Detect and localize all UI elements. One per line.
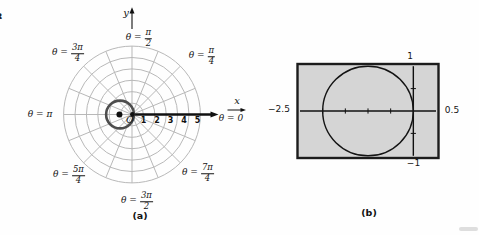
angle-label-prefix: θ =	[126, 34, 142, 43]
window-xmax-text: 0.5	[445, 106, 459, 115]
fraction: 5π4	[72, 165, 85, 185]
window-xmax-label: 0.5	[445, 106, 459, 115]
fraction-denominator: 4	[76, 176, 81, 185]
textbook-figure: 8 y x O θ = π2 θ = 3π4 θ = π4 θ = π θ = …	[0, 0, 479, 235]
fraction-numerator: 3π	[140, 191, 153, 202]
angle-label-prefix: θ =	[52, 49, 68, 58]
caption-a-text: (a)	[132, 211, 147, 221]
angle-label-3pi-over-2: θ = 3π2	[121, 191, 153, 211]
angle-label-text: θ = π	[28, 110, 53, 119]
angle-label-pi-over-2: θ = π2	[126, 28, 152, 48]
window-xmin-text: −2.5	[268, 104, 290, 113]
cropped-figure-number-text: 8	[0, 11, 2, 19]
fraction: π4	[208, 46, 216, 66]
angle-label-pi-over-4: θ = π4	[189, 46, 215, 66]
angle-label-prefix: θ =	[182, 169, 198, 178]
x-tick-label-2: 2	[154, 117, 160, 125]
angle-label-prefix: θ =	[121, 197, 137, 206]
caption-b-text: (b)	[361, 208, 376, 218]
fraction-numerator: 3π	[71, 43, 84, 54]
window-ymax-text: 1	[407, 52, 413, 61]
fraction: 7π4	[201, 163, 214, 183]
angle-label-pi: θ = π	[28, 110, 53, 119]
window-ymin-text: −1	[407, 159, 420, 168]
fraction-denominator: 2	[146, 39, 151, 48]
fraction-numerator: 5π	[72, 165, 85, 176]
fraction: π2	[145, 28, 153, 48]
fraction: 3π2	[140, 191, 153, 211]
fraction-numerator: π	[145, 28, 153, 39]
angle-label-7pi-over-4: θ = 7π4	[182, 163, 214, 183]
angle-label-3pi-over-4: θ = 3π4	[52, 43, 84, 63]
window-ymax-label: 1	[407, 52, 413, 61]
caption-a: (a)	[132, 211, 147, 221]
angle-label-zero: θ = 0	[219, 114, 243, 123]
y-axis-label-text: y	[123, 8, 129, 18]
x-tick-label-4: 4	[181, 117, 187, 125]
window-xmin-label: −2.5	[268, 104, 290, 113]
angle-label-5pi-over-4: θ = 5π4	[53, 165, 85, 185]
y-axis-label: y	[123, 8, 129, 18]
x-axis-label: x	[234, 96, 240, 106]
x-tick-label-1: 1	[141, 117, 147, 125]
x-tick-label-5: 5	[195, 117, 201, 125]
fraction: 3π4	[71, 43, 84, 63]
origin-label-text: O	[126, 115, 134, 125]
angle-label-prefix: θ =	[53, 171, 69, 180]
print-artifact	[459, 227, 478, 231]
x-tick-label-3: 3	[168, 117, 174, 125]
fraction-denominator: 4	[209, 57, 214, 66]
fraction-denominator: 4	[205, 174, 210, 183]
window-ymin-label: −1	[407, 159, 420, 168]
angle-label-text: θ = 0	[219, 114, 243, 123]
angle-label-prefix: θ =	[189, 52, 205, 61]
x-axis-label-text: x	[234, 96, 240, 106]
fraction-numerator: π	[208, 46, 216, 57]
origin-label: O	[126, 115, 134, 125]
cropped-figure-number: 8	[0, 6, 4, 19]
fraction-denominator: 4	[75, 54, 80, 63]
fraction-numerator: 7π	[201, 163, 214, 174]
caption-b: (b)	[361, 208, 376, 218]
